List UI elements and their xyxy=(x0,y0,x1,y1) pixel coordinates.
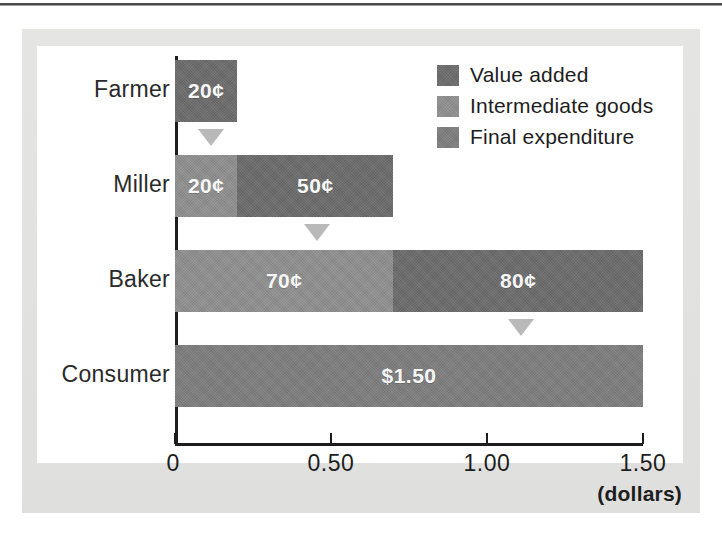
bar-value-label: 70¢ xyxy=(266,269,303,293)
category-label-consumer: Consumer xyxy=(62,361,171,388)
x-axis-tick-3 xyxy=(642,433,644,444)
bar-segment-consumer-0: $1.50 xyxy=(175,345,643,407)
x-axis-tick-label-3: 1.50 xyxy=(620,450,667,477)
x-axis-title: (dollars) xyxy=(597,482,682,506)
x-axis-tick-label-0: 0 xyxy=(167,450,180,477)
category-label-miller: Miller xyxy=(113,171,170,198)
bar-consumer: $1.50 xyxy=(175,345,643,407)
bar-segment-farmer-0: 20¢ xyxy=(175,60,237,122)
bar-segment-miller-1: 50¢ xyxy=(237,155,393,217)
bar-value-label: 80¢ xyxy=(500,269,537,293)
bar-value-label: $1.50 xyxy=(381,364,436,388)
x-axis-tick-2 xyxy=(486,433,488,444)
legend-swatch-value_added xyxy=(437,65,459,86)
bar-segment-baker-1: 80¢ xyxy=(393,250,643,312)
category-label-baker: Baker xyxy=(108,266,170,293)
legend-swatch-texture xyxy=(437,96,459,117)
bar-segment-baker-0: 70¢ xyxy=(175,250,393,312)
legend-swatch-texture xyxy=(437,65,459,86)
x-axis-tick-label-2: 1.00 xyxy=(464,450,511,477)
bar-segment-miller-0: 20¢ xyxy=(175,155,237,217)
chart-legend: Value addedIntermediate goodsFinal expen… xyxy=(437,62,653,155)
legend-swatch-intermediate xyxy=(437,96,459,117)
bar-farmer: 20¢ xyxy=(175,60,237,122)
bar-miller: 20¢50¢ xyxy=(175,155,393,217)
x-axis-tick-0 xyxy=(174,433,176,444)
bar-value-label: 20¢ xyxy=(188,79,225,103)
flow-marker-baker xyxy=(508,319,534,336)
bar-value-label: 20¢ xyxy=(188,174,225,198)
legend-swatch-texture xyxy=(437,127,459,148)
legend-swatch-final_expenditure xyxy=(437,127,459,148)
legend-item-final_expenditure: Final expenditure xyxy=(437,124,653,150)
x-axis-line xyxy=(175,443,643,446)
category-label-farmer: Farmer xyxy=(94,76,170,103)
plot-area: 00.501.001.50 FarmerMillerBakerConsumer … xyxy=(0,0,722,534)
flow-marker-farmer xyxy=(198,129,224,146)
flow-marker-miller xyxy=(304,224,330,241)
legend-label-intermediate: Intermediate goods xyxy=(470,94,653,118)
bar-value-label: 50¢ xyxy=(297,174,334,198)
bar-baker: 70¢80¢ xyxy=(175,250,643,312)
legend-label-value_added: Value added xyxy=(470,63,589,87)
legend-item-value_added: Value added xyxy=(437,62,653,88)
x-axis-tick-label-1: 0.50 xyxy=(308,450,355,477)
figure-root: 00.501.001.50 FarmerMillerBakerConsumer … xyxy=(0,0,722,534)
legend-item-intermediate: Intermediate goods xyxy=(437,93,653,119)
legend-label-final_expenditure: Final expenditure xyxy=(470,125,635,149)
x-axis-tick-1 xyxy=(330,433,332,444)
